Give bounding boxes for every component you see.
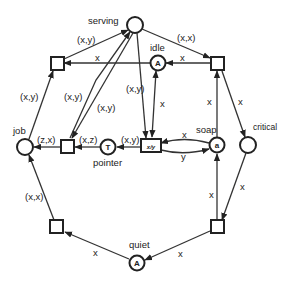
place-pointer-token: T (106, 143, 111, 152)
arc-label: (x,y) (97, 102, 115, 113)
arc-idle-xy (152, 71, 156, 137)
arc-label: (x,y) (121, 134, 139, 145)
arc-label: x (182, 129, 187, 140)
transition-bottom-left[interactable] (50, 220, 63, 233)
arc-label: (x,y) (77, 34, 95, 45)
place-critical-label: critical (253, 122, 277, 132)
place-critical[interactable] (240, 137, 256, 153)
arc-label: (x,x) (25, 191, 43, 202)
place-quiet-token: A (134, 259, 140, 268)
place-serving[interactable] (127, 17, 143, 33)
arc-label: (x,y) (64, 91, 82, 102)
transition-xy-label: x/y (146, 144, 156, 150)
petri-net-diagram: (x,y) (x,x) x x (x,y) (x,y) (x,y) (x,y) … (0, 0, 293, 283)
place-job-label: job (12, 125, 26, 136)
arc-soap-xy (161, 140, 209, 144)
arc-label: (x,y) (20, 91, 38, 102)
arc-label: x (180, 52, 185, 63)
arc-label: x (93, 247, 98, 258)
arc-label: (x,x) (177, 32, 195, 43)
transition-top-left[interactable] (51, 57, 64, 70)
place-pointer-label: pointer (93, 157, 122, 168)
arc-label: x (95, 52, 100, 63)
arc-label: x (209, 189, 214, 200)
arc-label: x (160, 98, 165, 109)
arc-job-tl (29, 71, 53, 139)
transition-mid-left[interactable] (61, 140, 74, 153)
arc-ml-serving (70, 32, 130, 138)
arc-bl-job (29, 155, 54, 220)
place-soap-token: a (215, 141, 220, 150)
arc-label: (x,y) (126, 83, 144, 94)
arc-serving-ml (72, 33, 133, 138)
place-idle-token: A (155, 59, 161, 68)
place-job[interactable] (17, 139, 33, 155)
transition-bottom-right[interactable] (211, 220, 224, 233)
arc-label: y (181, 151, 186, 162)
arc-label: (z,x) (37, 134, 55, 145)
arc-label: x (240, 181, 245, 192)
arc-label: x (178, 248, 183, 259)
transition-top-right[interactable] (211, 57, 224, 70)
arc-label: (x,z) (79, 134, 97, 145)
arc-label: x (207, 96, 212, 107)
place-idle-label: idle (150, 42, 165, 53)
place-soap-label: soap (196, 124, 217, 135)
place-serving-label: serving (88, 15, 119, 26)
place-quiet-label: quiet (129, 239, 150, 250)
arc-label: x (238, 96, 243, 107)
